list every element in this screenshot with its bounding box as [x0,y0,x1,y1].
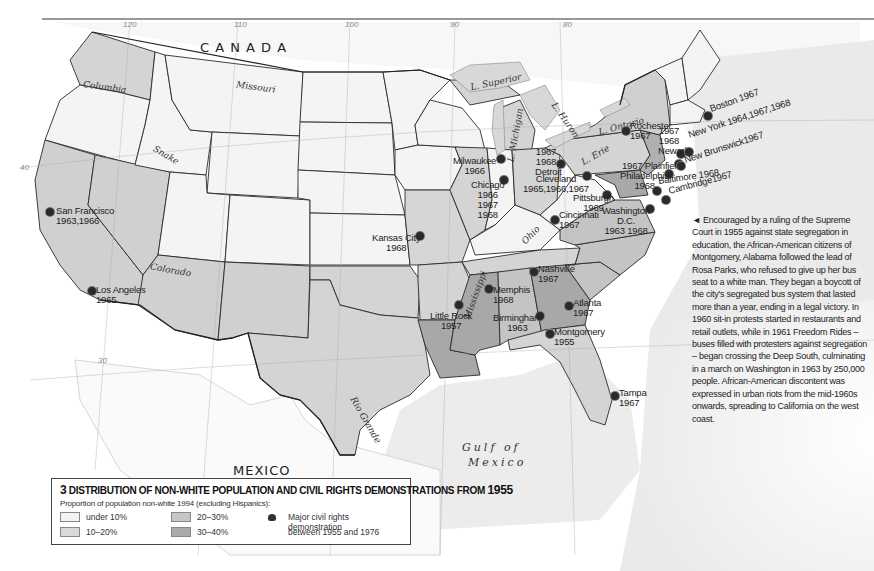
legend-label-30-40: 30–40% [197,527,228,537]
demo-label-montgomery: Montgomery1955 [554,327,605,347]
demo-label-cincinnati: Cincinnati1967 [559,210,599,230]
demo-label-nashville: Nashville1967 [538,264,575,284]
longitude-label-80: 80 [563,20,572,29]
gulf-line-1: Gulf of [462,440,526,455]
longitude-label-110: 110 [234,20,247,29]
longitude-label-90: 90 [450,20,459,29]
longitude-label-100: 100 [345,20,358,29]
demo-label-memphis: Memphis1968 [493,285,530,305]
country-label-canada: C A N A D A [200,40,287,55]
demo-label-washington-dc: Washington D.C.1963 1968 [598,206,654,236]
demo-label-newark: 1967 1968Newark [658,126,680,156]
map-caption: ◄ Encouraged by a ruling of the Supreme … [692,214,872,425]
demo-marker-nashville[interactable] [530,268,538,276]
legend: 3 DISTRIBUTION OF NON-WHITE POPULATION A… [51,478,411,545]
demo-label-san-francisco: San Francisco1963,1966 [56,206,114,226]
demonstration-icon [268,514,276,521]
legend-symbol-label-2: between 1955 and 1976 [288,527,379,537]
water-label-gulf-of-mexico: Gulf of Mexico [462,440,526,470]
demo-marker-cambridge[interactable] [662,196,670,204]
demo-label-tampa: Tampa1967 [619,388,647,408]
demo-marker-los-angeles[interactable] [88,287,96,295]
demo-marker-milwaukee[interactable] [497,155,505,163]
demo-label-milwaukee: Milwaukee1966 [453,156,496,176]
demo-label-los-angeles: Los Angeles1965 [96,285,146,305]
gulf-line-2: Mexico [462,455,526,470]
legend-number: 3 [60,483,66,497]
caption-text: Encouraged by a ruling of the Supreme Co… [692,215,867,424]
legend-swatch-under-10 [60,512,80,522]
demo-label-little-rock: Little Rock1957 [430,311,472,331]
longitude-label-120: 120 [123,20,136,29]
demo-label-kansas-city: Kansas City1968 [372,233,421,253]
demo-marker-new-brunswick[interactable] [677,162,685,170]
caption-pointer-icon: ◄ [692,215,701,225]
demo-label-cleveland: Cleveland1965,1966,1967 [523,174,589,194]
demo-marker-montgomery[interactable] [546,330,554,338]
legend-label-10-20: 10–20% [86,527,117,537]
demo-marker-san-francisco[interactable] [46,208,54,216]
legend-year: 1955 [487,483,513,497]
legend-swatch-20-30 [171,512,191,522]
latitude-label-40: 40 [20,163,29,172]
demo-marker-memphis[interactable] [485,285,493,293]
legend-grid: under 10% 10–20% 20–30% 30–40% Major civ… [60,510,402,544]
legend-swatch-30-40 [171,527,191,537]
demo-marker-little-rock[interactable] [455,301,463,309]
legend-title-text: DISTRIBUTION OF NON-WHITE POPULATION AND… [69,485,485,496]
country-label-mexico: MEXICO [233,463,290,478]
latitude-label-30: 30 [98,356,107,365]
demo-marker-tampa[interactable] [611,392,619,400]
legend-title: 3 DISTRIBUTION OF NON-WHITE POPULATION A… [60,483,402,497]
demo-marker-rochester[interactable] [622,127,630,135]
demo-marker-atlanta[interactable] [565,302,573,310]
demo-marker-cincinnati[interactable] [551,216,559,224]
demo-marker-baltimore[interactable] [653,187,661,195]
demo-label-atlanta: Atlanta1967 [573,298,601,318]
legend-swatch-10-20 [60,527,80,537]
legend-label-20-30: 20–30% [197,512,228,522]
demo-label-chicago: Chicago1966 1967 1968 [471,180,504,220]
demo-label-birmingham: Birmingham1963 [493,313,542,333]
legend-subtitle: Proportion of population non-white 1994 … [60,499,402,508]
legend-label-under-10: under 10% [86,512,127,522]
